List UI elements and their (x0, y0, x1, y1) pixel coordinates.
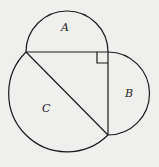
label-a: A (60, 21, 69, 34)
geometry-diagram: A B C (0, 0, 159, 167)
semicircle-c (9, 52, 108, 152)
triangle-hypotenuse (26, 52, 108, 135)
label-b: B (124, 87, 133, 100)
right-angle-marker (97, 52, 108, 63)
label-c: C (42, 102, 51, 115)
